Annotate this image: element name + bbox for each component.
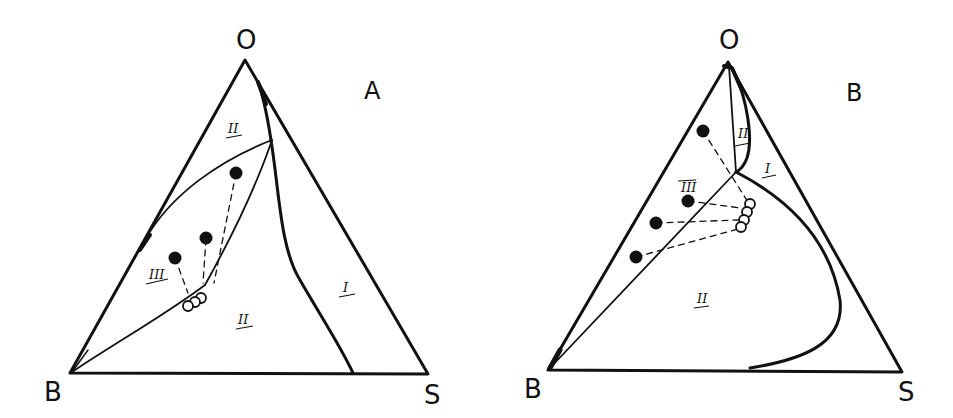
open-points [183,293,206,311]
open-points [736,199,755,232]
phase-boundary-one-phase [262,95,353,373]
region-label-III: III [680,180,697,195]
region-label-II-bottom: II [696,291,708,306]
region-label-II-top: II [227,121,239,136]
vertex-label-b-b: B [524,374,542,404]
three-phase-boundary [550,172,736,368]
region-label-I: I [764,161,771,176]
vertex-label-b-a: B [44,377,62,407]
three-phase-right-arc [205,140,272,285]
panel-label-b: B [846,79,862,107]
triangle-outline [548,62,902,372]
apex-tie-line [729,66,736,172]
two-phase-lower-arc [72,285,205,372]
ternary-phase-diagrams: II III II I O A B S [0,0,953,418]
vertex-label-o-b: O [719,25,739,55]
vertex-label-s-b: S [898,377,915,407]
panel-label-a: A [364,77,381,105]
vertex-label-s-a: S [424,380,441,410]
panel-b [548,62,902,372]
region-label-II-top: II [737,126,749,141]
vertex-label-o-a: O [236,25,256,55]
region-label-I: I [342,280,349,295]
region-label-II-bottom: II [237,312,249,327]
